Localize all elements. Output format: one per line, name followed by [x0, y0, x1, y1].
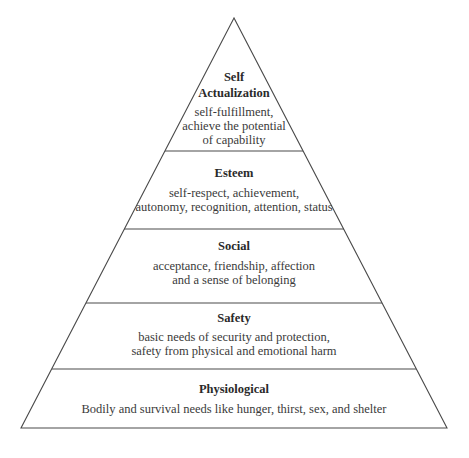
layer-social: Social acceptance, friendship, affection… — [153, 239, 316, 287]
layer-description: of capability — [203, 133, 267, 147]
layer-description: safety from physical and emotional harm — [131, 344, 336, 358]
layer-description: self-fulfillment, — [195, 105, 274, 119]
layer-title: Physiological — [199, 382, 270, 396]
layer-title: Actualization — [198, 86, 270, 100]
layer-title: Social — [218, 239, 250, 253]
layer-title: Safety — [217, 311, 251, 325]
layer-description: basic needs of security and protection, — [138, 330, 330, 344]
layer-esteem: Esteem self-respect, achievement, autono… — [135, 166, 332, 214]
pyramid-diagram: Self Actualization self-fulfillment, ach… — [0, 0, 469, 458]
layer-title: Esteem — [215, 166, 254, 180]
layer-physiological: Physiological Bodily and survival needs … — [82, 382, 388, 416]
layer-description: and a sense of belonging — [172, 273, 296, 287]
layer-description: Bodily and survival needs like hunger, t… — [82, 402, 388, 416]
layer-title: Self — [224, 70, 245, 84]
layer-description: autonomy, recognition, attention, status — [135, 200, 332, 214]
layer-safety: Safety basic needs of security and prote… — [131, 311, 336, 358]
layer-self-actualization: Self Actualization self-fulfillment, ach… — [182, 70, 286, 147]
layer-description: acceptance, friendship, affection — [153, 259, 316, 273]
layer-description: self-respect, achievement, — [169, 186, 299, 200]
layer-description: achieve the potential — [182, 119, 286, 133]
